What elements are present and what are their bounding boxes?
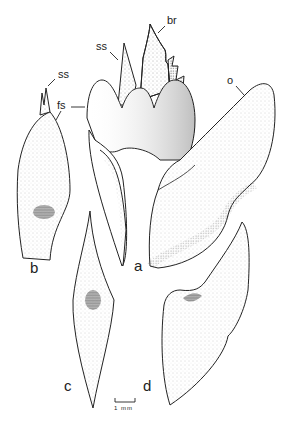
label-br: br [167, 15, 177, 26]
leader-br [158, 26, 165, 33]
label-fs: fs [57, 100, 66, 111]
label-o: o [227, 75, 233, 86]
leader-ss-a [110, 52, 118, 60]
label-ss-a: ss [96, 41, 107, 52]
panel-label-d: d [143, 378, 151, 393]
botanical-figure: br ss ss fs o a b c d 1 mm [0, 0, 290, 426]
label-ss-b: ss [58, 69, 69, 80]
panel-label-b: b [30, 260, 38, 275]
figure-drawing [0, 0, 290, 426]
leader-fs-b [56, 111, 61, 120]
scale-bar-label: 1 mm [114, 405, 133, 411]
scale-bar [115, 398, 135, 402]
panel-b-drawing [17, 88, 70, 260]
panel-label-a: a [134, 258, 142, 273]
panel-c-drawing [73, 211, 114, 408]
leader-o [236, 86, 244, 95]
panel-label-c: c [64, 378, 72, 393]
leader-ss-b [48, 79, 55, 86]
